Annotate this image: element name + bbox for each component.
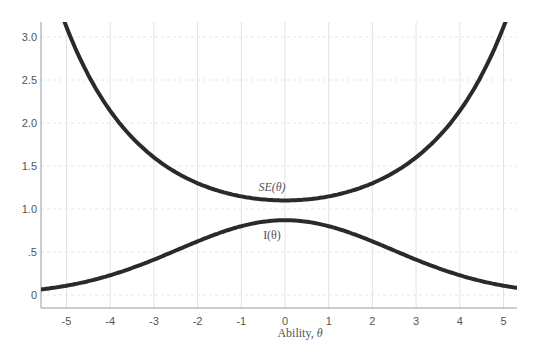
x-tick-label: -2 <box>193 315 203 327</box>
y-tick-label: 1.5 <box>22 160 37 172</box>
se-curve-label: SE(θ) <box>258 180 285 194</box>
vertical-gridlines <box>67 22 504 308</box>
information-curve-label: I(θ) <box>263 228 281 242</box>
y-tick-label: 3.0 <box>22 31 37 43</box>
x-axis-title: Ability, θ <box>277 326 322 340</box>
chart: 0.51.01.52.02.53.0 -5-4-3-2-1012345 SE(θ… <box>0 0 537 355</box>
x-tick-label: -1 <box>236 315 246 327</box>
y-tick-label: 2.5 <box>22 74 37 86</box>
x-tick-label: -3 <box>149 315 159 327</box>
x-tick-label: 1 <box>326 315 332 327</box>
y-tick-label: 0 <box>31 289 37 301</box>
x-tick-label: 2 <box>369 315 375 327</box>
x-tick-label: -5 <box>62 315 72 327</box>
y-tick-label: .5 <box>28 246 37 258</box>
x-tick-label: 3 <box>413 315 419 327</box>
y-tick-label: 2.0 <box>22 117 37 129</box>
x-tick-label: 5 <box>500 315 506 327</box>
se-curve <box>40 0 521 200</box>
y-tick-labels: 0.51.01.52.02.53.0 <box>22 31 37 301</box>
x-tick-label: -4 <box>105 315 115 327</box>
x-tick-label: 4 <box>457 315 463 327</box>
y-tick-label: 1.0 <box>22 203 37 215</box>
horizontal-gridlines <box>41 37 517 295</box>
